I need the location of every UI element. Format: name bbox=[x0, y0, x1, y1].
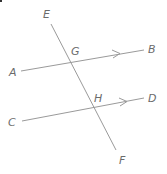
transversal-line-ef bbox=[51, 24, 116, 150]
parallel-arrow-icon bbox=[112, 50, 120, 58]
point-label-a: A bbox=[8, 66, 17, 79]
parallel-line-ab bbox=[21, 50, 144, 71]
point-label-e: E bbox=[43, 8, 50, 21]
point-label-c: C bbox=[8, 116, 16, 129]
point-label-h: H bbox=[94, 92, 102, 105]
point-label-g: G bbox=[71, 45, 80, 58]
parallel-lines-diagram: E G B A H D C F bbox=[0, 0, 167, 174]
point-label-f: F bbox=[119, 154, 126, 167]
point-label-d: D bbox=[148, 92, 156, 105]
point-label-b: B bbox=[148, 43, 156, 56]
